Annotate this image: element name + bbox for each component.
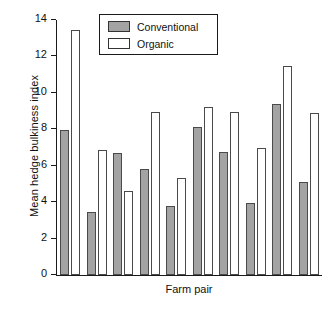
plot-area: 02468101214 xyxy=(56,20,322,276)
y-tick: 4 xyxy=(51,201,56,202)
bar-organic xyxy=(257,148,266,275)
x-axis-line xyxy=(56,275,322,276)
bar-group xyxy=(190,20,217,275)
bar-conventional xyxy=(246,203,255,275)
y-tick: 12 xyxy=(51,55,56,56)
bar-organic xyxy=(151,112,160,275)
legend-item-conventional: Conventional xyxy=(108,19,217,34)
bar-groups xyxy=(57,20,322,275)
bar-group xyxy=(57,20,84,275)
y-tick-label: 2 xyxy=(41,231,47,244)
legend-item-organic: Organic xyxy=(108,36,217,51)
y-tick: 0 xyxy=(51,274,56,275)
bar-organic xyxy=(310,113,319,275)
bar-conventional xyxy=(113,153,122,275)
chart-legend: Conventional Organic xyxy=(99,14,218,55)
y-tick: 10 xyxy=(51,92,56,93)
bar-group xyxy=(110,20,137,275)
x-axis-label: Farm pair xyxy=(56,283,322,295)
bar-organic xyxy=(98,150,107,275)
y-tick: 8 xyxy=(51,128,56,129)
y-tick-label: 0 xyxy=(41,267,47,280)
y-axis-label: Mean hedge bulkiness index xyxy=(28,26,40,266)
bar-conventional xyxy=(193,127,202,275)
bar-organic xyxy=(177,178,186,275)
hedge-bulkiness-bar-chart: Mean hedge bulkiness index 02468101214 C… xyxy=(0,0,330,311)
legend-swatch-conventional xyxy=(108,21,130,32)
y-tick: 2 xyxy=(51,238,56,239)
bar-organic xyxy=(283,66,292,275)
bar-organic xyxy=(71,30,80,275)
bar-conventional xyxy=(299,182,308,275)
y-tick-label: 8 xyxy=(41,121,47,134)
bar-conventional xyxy=(60,130,69,275)
bar-group xyxy=(84,20,111,275)
y-tick-label: 6 xyxy=(41,158,47,171)
legend-swatch-organic xyxy=(108,38,130,49)
bar-group xyxy=(269,20,296,275)
legend-label-organic: Organic xyxy=(137,38,174,50)
y-tick-label: 14 xyxy=(35,12,47,25)
bar-conventional xyxy=(87,212,96,275)
bar-group xyxy=(216,20,243,275)
legend-label-conventional: Conventional xyxy=(137,21,198,33)
bar-group xyxy=(243,20,270,275)
bar-organic xyxy=(204,107,213,275)
y-tick-label: 4 xyxy=(41,194,47,207)
bar-group xyxy=(163,20,190,275)
bar-conventional xyxy=(272,104,281,275)
bar-conventional xyxy=(219,152,228,275)
bar-group xyxy=(137,20,164,275)
bar-conventional xyxy=(140,169,149,275)
bar-conventional xyxy=(166,206,175,275)
y-tick: 6 xyxy=(51,165,56,166)
bar-group xyxy=(296,20,323,275)
y-tick-label: 10 xyxy=(35,85,47,98)
bar-organic xyxy=(124,191,133,275)
y-tick-label: 12 xyxy=(35,48,47,61)
y-tick: 14 xyxy=(51,19,56,20)
bar-organic xyxy=(230,112,239,275)
